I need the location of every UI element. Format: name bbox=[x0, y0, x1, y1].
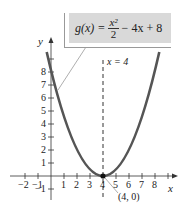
equation-leader-line bbox=[58, 47, 86, 90]
x-tick-label: 8 bbox=[152, 180, 157, 190]
equation-denominator: 2 bbox=[111, 29, 117, 40]
y-tick-label: 8 bbox=[41, 67, 46, 77]
y-tick-label: 4 bbox=[41, 119, 46, 129]
equation-fraction: x² 2 bbox=[108, 17, 118, 40]
equation-box: g(x) = x² 2 − 4x + 8 bbox=[64, 13, 171, 48]
y-tick-label: 5 bbox=[41, 106, 46, 116]
y-tick-label: 6 bbox=[41, 93, 46, 103]
axis-of-symmetry-label: x = 4 bbox=[107, 57, 128, 67]
equation-rhs: − 4x + 8 bbox=[122, 21, 163, 36]
y-tick-label: −1 bbox=[35, 184, 46, 194]
y-axis-label: y bbox=[38, 36, 43, 47]
x-tick-label: 4 bbox=[100, 180, 105, 190]
x-tick-label: 1 bbox=[61, 180, 66, 190]
x-tick-label: 7 bbox=[139, 180, 144, 190]
y-tick-label: 1 bbox=[41, 158, 46, 168]
equation-numerator: x² bbox=[108, 17, 118, 29]
y-tick-label: 7 bbox=[41, 80, 46, 90]
y-tick-label: 3 bbox=[41, 132, 46, 142]
x-tick-label: −2 bbox=[18, 180, 29, 190]
vertex-point bbox=[100, 173, 105, 178]
vertex-label: (4, 0) bbox=[118, 192, 140, 202]
x-tick-label: 5 bbox=[113, 180, 118, 190]
equation: g(x) = x² 2 − 4x + 8 bbox=[69, 13, 171, 43]
x-tick-label: 6 bbox=[126, 180, 131, 190]
x-axis-arrow-icon bbox=[172, 174, 178, 179]
y-tick-label: 2 bbox=[41, 145, 46, 155]
x-tick-label: 2 bbox=[74, 180, 79, 190]
y-axis-arrow-icon bbox=[49, 37, 54, 43]
x-axis-label: x bbox=[168, 183, 173, 194]
x-tick-label: 3 bbox=[87, 180, 92, 190]
equation-lhs: g(x) = bbox=[75, 21, 105, 36]
